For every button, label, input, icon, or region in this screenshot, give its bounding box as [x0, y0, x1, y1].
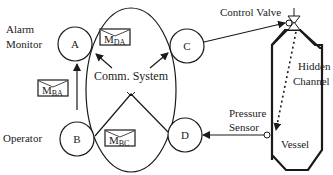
arrow-to-a: [96, 54, 112, 68]
hidden-channel-label-2: Channel: [293, 75, 330, 87]
arrow-c-to-valve: [204, 23, 285, 42]
vessel-label: Vessel: [281, 138, 309, 150]
node-d: D: [168, 118, 202, 152]
hidden-channel-label: Hidden: [298, 60, 331, 72]
alarm-monitor-label-2: Monitor: [6, 38, 42, 50]
pressure-sensor-label: Pressure: [229, 107, 266, 119]
svg-text:D: D: [181, 129, 189, 141]
pressure-sensor-icon: [264, 132, 270, 138]
message-m-da: MDA: [100, 29, 130, 47]
node-a: A: [58, 27, 92, 61]
message-m-bc: MBC: [105, 130, 135, 148]
message-m-ba: MBA: [38, 80, 68, 98]
arrow-to-c: [150, 53, 168, 68]
node-b: B: [60, 122, 94, 156]
svg-text:C: C: [183, 40, 190, 52]
control-valve-icon: [286, 8, 300, 30]
communication-system-diagram: Comm. System A B C D Alarm Monitor Opera…: [0, 0, 333, 175]
alarm-monitor-label: Alarm: [6, 23, 35, 35]
comm-system-label: Comm. System: [94, 69, 169, 83]
node-c: C: [170, 29, 204, 63]
control-valve-label: Control Valve: [220, 6, 281, 18]
svg-text:B: B: [73, 133, 80, 145]
pressure-sensor-label-2: Sensor: [229, 121, 259, 133]
svg-text:A: A: [71, 38, 79, 50]
operator-label: Operator: [3, 132, 42, 144]
